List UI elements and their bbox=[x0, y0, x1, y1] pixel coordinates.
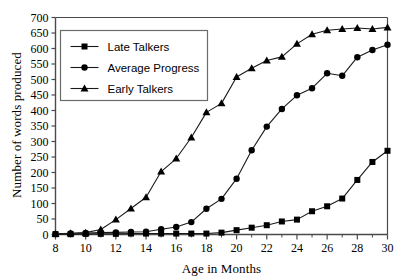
data-point-marker-circle bbox=[218, 196, 224, 202]
legend: Late TalkersAverage ProgressEarly Talker… bbox=[61, 31, 208, 101]
x-axis-tick-label: 28 bbox=[351, 241, 363, 255]
y-axis-tick-label: 0 bbox=[43, 228, 49, 242]
data-point-marker-circle bbox=[354, 54, 360, 60]
y-axis-tick-label: 500 bbox=[31, 73, 49, 87]
data-point-marker-square bbox=[203, 231, 209, 237]
data-point-marker-triangle bbox=[97, 226, 105, 233]
legend-item-label: Average Progress bbox=[108, 62, 200, 74]
data-point-marker-circle bbox=[233, 176, 239, 182]
data-point-marker-triangle bbox=[248, 64, 256, 71]
data-point-marker-circle bbox=[158, 226, 164, 232]
y-axis-tick-label: 400 bbox=[31, 104, 49, 118]
data-point-marker-square bbox=[264, 222, 270, 228]
x-axis-title-text: Age in Months bbox=[182, 261, 261, 276]
legend-item-label: Late Talkers bbox=[108, 41, 170, 53]
data-point-marker-circle bbox=[324, 70, 330, 76]
x-axis-tick-label: 30 bbox=[382, 241, 394, 255]
x-axis-tick-label: 24 bbox=[291, 241, 303, 255]
series-line bbox=[56, 151, 388, 234]
x-axis-tick-label: 8 bbox=[53, 241, 59, 255]
data-point-marker-triangle bbox=[202, 108, 210, 115]
y-axis-tick-label: 550 bbox=[31, 57, 49, 71]
data-point-marker-circle bbox=[369, 47, 375, 53]
data-point-marker-square bbox=[234, 227, 240, 233]
chart-container: 0501001502002503003504004505005506006507… bbox=[0, 0, 402, 279]
data-point-marker-square bbox=[279, 218, 285, 224]
legend-item-label: Early Talkers bbox=[108, 83, 174, 95]
data-point-marker-triangle bbox=[127, 204, 135, 211]
data-point-marker-circle bbox=[279, 106, 285, 112]
x-axis-tick-label: 22 bbox=[261, 241, 273, 255]
y-axis-tick-label: 650 bbox=[31, 26, 49, 40]
y-axis-tick-label: 150 bbox=[31, 181, 49, 195]
x-axis-tick-label: 12 bbox=[110, 241, 122, 255]
y-axis-tick-label: 300 bbox=[31, 135, 49, 149]
y-axis-tick-label: 200 bbox=[31, 166, 49, 180]
y-axis-tick-label: 450 bbox=[31, 88, 49, 102]
data-point-marker-circle bbox=[339, 73, 345, 79]
y-axis-tick-label: 100 bbox=[31, 197, 49, 211]
line-chart-plot: 0501001502002503003504004505005506006507… bbox=[0, 0, 402, 279]
data-point-marker-square bbox=[294, 217, 300, 223]
y-axis-tick-label: 350 bbox=[31, 119, 49, 133]
x-axis-tick-label: 18 bbox=[200, 241, 212, 255]
data-point-marker-triangle bbox=[218, 99, 226, 106]
data-point-marker-square bbox=[339, 196, 345, 202]
data-point-marker-triangle bbox=[233, 73, 241, 80]
data-point-marker-triangle bbox=[353, 24, 361, 31]
y-axis-tick-label: 50 bbox=[37, 212, 49, 226]
data-point-marker-triangle bbox=[293, 40, 301, 47]
data-point-marker-square bbox=[354, 177, 360, 183]
data-point-marker-circle bbox=[203, 206, 209, 212]
data-point-marker-circle bbox=[309, 85, 315, 91]
data-point-marker-triangle bbox=[187, 133, 195, 140]
x-axis-tick-label: 14 bbox=[140, 241, 152, 255]
data-point-marker-triangle bbox=[112, 216, 120, 223]
data-point-marker-triangle bbox=[142, 193, 150, 200]
y-axis-tick-label: 700 bbox=[31, 11, 49, 25]
data-point-marker-circle bbox=[128, 229, 134, 235]
data-point-marker-square bbox=[324, 203, 330, 209]
data-point-marker-circle bbox=[143, 229, 149, 235]
y-axis-tick-label: 600 bbox=[31, 42, 49, 56]
data-point-marker-circle bbox=[384, 42, 390, 48]
data-point-marker-square bbox=[309, 208, 315, 214]
data-point-marker-triangle bbox=[384, 23, 392, 30]
data-point-marker-square bbox=[369, 159, 375, 165]
data-point-marker-circle bbox=[294, 92, 300, 98]
y-axis-tick-label: 250 bbox=[31, 150, 49, 164]
data-point-marker-square bbox=[82, 44, 88, 50]
data-point-marker-circle bbox=[81, 64, 87, 70]
data-point-marker-triangle bbox=[172, 155, 180, 162]
data-point-marker-circle bbox=[113, 229, 119, 235]
data-point-marker-circle bbox=[264, 123, 270, 129]
x-axis-tick-label: 26 bbox=[321, 241, 333, 255]
series-late-talkers bbox=[53, 148, 391, 237]
data-point-marker-square bbox=[249, 225, 255, 231]
data-point-marker-circle bbox=[248, 147, 254, 153]
data-point-marker-circle bbox=[173, 224, 179, 230]
data-point-marker-circle bbox=[188, 219, 194, 225]
data-point-marker-square bbox=[219, 230, 225, 236]
data-point-marker-square bbox=[385, 148, 391, 154]
x-axis-title: Age in Months bbox=[55, 259, 388, 277]
x-axis-tick-label: 16 bbox=[170, 241, 182, 255]
x-axis-tick-label: 10 bbox=[80, 241, 92, 255]
data-point-marker-square bbox=[188, 231, 194, 237]
x-axis-tick-label: 20 bbox=[231, 241, 243, 255]
data-point-marker-square bbox=[173, 231, 179, 237]
